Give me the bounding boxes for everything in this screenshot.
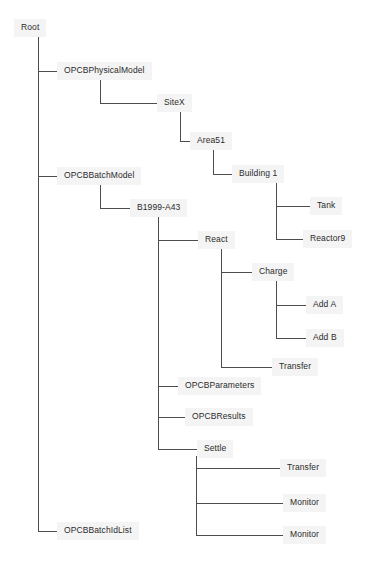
tree-node-batchmodel[interactable]: OPCBBatchModel [57,167,141,185]
tree-node-physicalmodel[interactable]: OPCBPhysicalModel [57,62,152,80]
tree-node-react[interactable]: React [198,231,235,249]
tree-node-opcbparameters[interactable]: OPCBParameters [178,377,261,395]
tree-node-transfer1[interactable]: Transfer [272,358,318,376]
tree-node-monitor1[interactable]: Monitor [283,494,326,512]
tree-node-batchidlist[interactable]: OPCBBatchIdList [57,522,139,540]
tree-node-root[interactable]: Root [14,19,46,37]
tree-node-b1999a43[interactable]: B1999-A43 [130,199,187,217]
tree-node-monitor2[interactable]: Monitor [283,526,326,544]
tree-node-transfer2[interactable]: Transfer [280,459,326,477]
tree-node-building1[interactable]: Building 1 [232,165,284,183]
tree-node-addb[interactable]: Add B [306,329,344,347]
tree-node-adda[interactable]: Add A [306,296,343,314]
tree-node-settle[interactable]: Settle [197,440,233,458]
tree-connector-lines [0,0,392,564]
tree-node-tank[interactable]: Tank [310,197,342,215]
tree-node-opcbresults[interactable]: OPCBResults [185,408,253,426]
tree-node-charge[interactable]: Charge [252,263,294,281]
tree-diagram: RootOPCBPhysicalModelSiteXArea51Building… [0,0,392,564]
tree-node-area51[interactable]: Area51 [190,132,232,150]
tree-node-reactor9[interactable]: Reactor9 [303,230,352,248]
tree-node-sitex[interactable]: SiteX [157,94,192,112]
